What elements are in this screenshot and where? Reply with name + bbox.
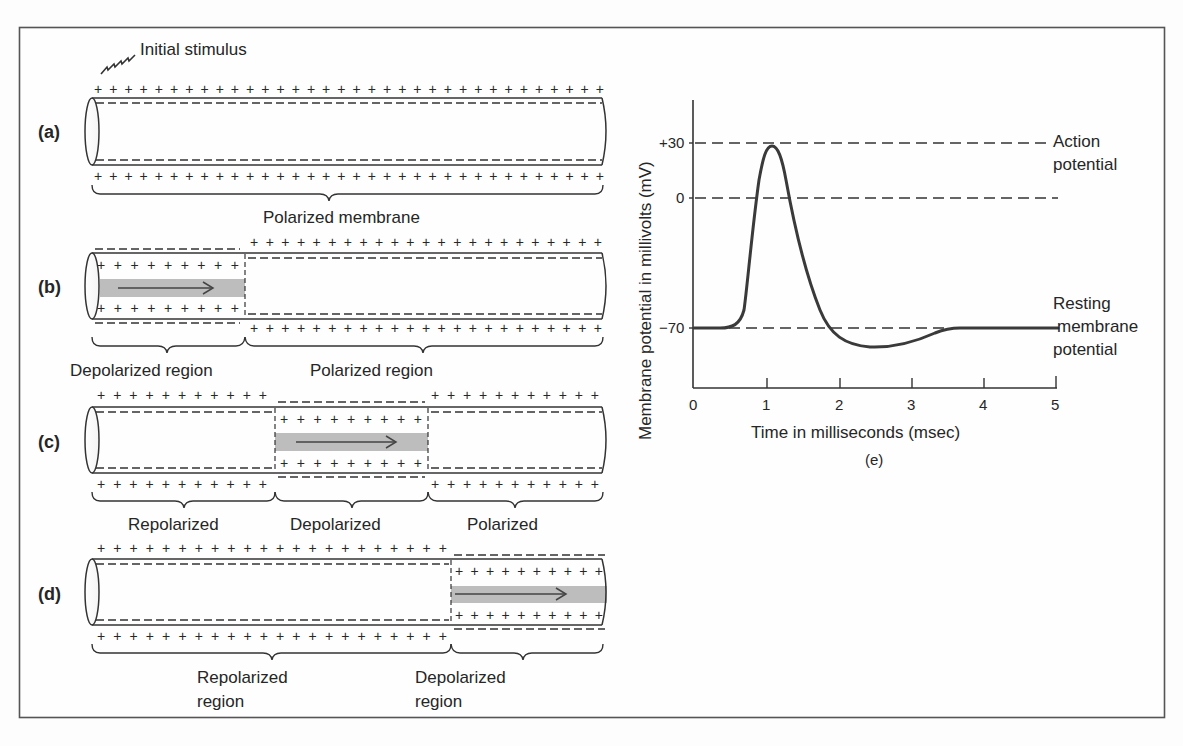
y-tick-label: 0 xyxy=(676,189,684,206)
action-potential-figure: (a) Initial stimulus + + + + + + + + + +… xyxy=(0,0,1183,746)
x-axis-title: Time in milliseconds (msec) xyxy=(751,423,960,442)
annotation-resting-potential: Resting xyxy=(1053,294,1111,313)
annotation-resting-potential: membrane xyxy=(1057,317,1138,336)
y-axis-title: Membrane potential in millivolts (mV) xyxy=(636,161,655,440)
annotation-action-potential: Action xyxy=(1053,132,1100,151)
membrane-end-cap xyxy=(85,98,99,165)
y-tick-label: +30 xyxy=(659,134,684,151)
initial-stimulus-label: Initial stimulus xyxy=(140,40,247,59)
charge-row: + + + + + + + + + xyxy=(280,455,422,471)
annotation-resting-potential: potential xyxy=(1053,340,1117,359)
x-tick-label: 0 xyxy=(689,396,697,413)
charge-row: + + + + + + + + + xyxy=(97,300,239,316)
x-tick-label: 5 xyxy=(1051,396,1059,413)
x-tick-label: 2 xyxy=(835,396,843,413)
region-label: Polarized region xyxy=(310,361,433,380)
x-tick-label: 1 xyxy=(762,396,770,413)
region-label: Polarized xyxy=(467,515,538,534)
panel-label-c: (c) xyxy=(38,432,60,452)
charge-row: + + + + + + + + + + + + + + + + + + + + … xyxy=(250,320,602,336)
charge-row: + + + + + + + + + + + + + + + + + + + + … xyxy=(250,234,602,250)
panel-label-b: (b) xyxy=(38,277,61,297)
region-label: Depolarized xyxy=(290,515,381,534)
region-label: Depolarized xyxy=(415,668,506,687)
charge-row: + + + + + + + + + xyxy=(280,411,422,427)
x-tick-label: 3 xyxy=(907,396,915,413)
region-label: Repolarized xyxy=(197,668,288,687)
panel-label-e: (e) xyxy=(865,451,883,468)
charge-row: + + + + + + + + + + xyxy=(455,563,603,579)
region-label: Repolarized xyxy=(128,515,219,534)
charge-row: + + + + + + + + + + + + + + + + + + + + … xyxy=(94,81,604,97)
panel-label-d: (d) xyxy=(38,584,61,604)
charge-row: + + + + + + + + + + + + + + + + + + + + … xyxy=(97,540,447,556)
region-label: region xyxy=(197,692,244,711)
annotation-action-potential: potential xyxy=(1053,155,1117,174)
charge-row: + + + + + + + + + + xyxy=(455,607,603,623)
panel-label-a: (a) xyxy=(38,122,60,142)
region-label: region xyxy=(415,692,462,711)
region-label: Polarized membrane xyxy=(263,208,420,227)
charge-row: + + + + + + + + + + + + + + + + + + + + … xyxy=(94,168,604,184)
charge-row: + + + + + + + + + xyxy=(97,257,239,273)
charge-row: + + + + + + + + + + + + + + + + + + + + … xyxy=(97,628,447,644)
y-tick-label: −70 xyxy=(659,319,684,336)
region-label: Depolarized region xyxy=(70,361,213,380)
x-tick-label: 4 xyxy=(979,396,987,413)
